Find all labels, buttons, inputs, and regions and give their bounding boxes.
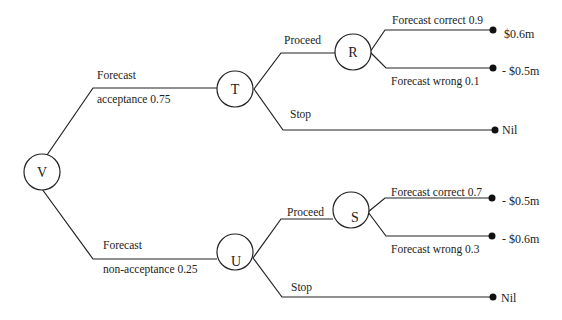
branch-t-stop: Stop Nil	[254, 89, 518, 137]
branch-label: Forecast wrong 0.1	[391, 75, 480, 88]
branch-line	[370, 30, 493, 52]
branch-label-line1: Forecast	[103, 239, 143, 251]
node-label: V	[37, 165, 47, 180]
branch-label: Stop	[290, 108, 311, 121]
branch-label: Forecast correct 0.9	[392, 14, 483, 26]
branch-line	[253, 219, 333, 258]
payoff-value: Nil	[501, 291, 517, 305]
payoff-value: - $0.5m	[502, 64, 540, 78]
payoff-value: - $0.6m	[502, 232, 540, 246]
branch-label: Proceed	[284, 34, 321, 46]
node-label: R	[348, 45, 358, 60]
branch-label-line2: acceptance 0.75	[97, 93, 171, 106]
branch-u-stop: Stop Nil	[253, 258, 517, 305]
branch-line	[368, 198, 492, 212]
branch-u-proceed: Proceed	[253, 206, 333, 258]
node-t: T	[217, 71, 253, 107]
terminal-dot	[490, 294, 497, 301]
branch-forecast-acceptance: Forecast acceptance 0.75	[47, 69, 217, 155]
branch-label: Stop	[291, 281, 312, 294]
branch-line	[254, 53, 335, 89]
terminal-dot	[490, 27, 497, 34]
terminal-dot	[490, 65, 497, 72]
node-label: S	[351, 210, 359, 225]
terminal-dot	[489, 195, 496, 202]
node-label: U	[231, 254, 241, 269]
branch-label-line1: Forecast	[97, 69, 137, 81]
branch-t-proceed: Proceed	[254, 34, 335, 89]
branch-r-correct: Forecast correct 0.9 $0.6m	[370, 14, 535, 52]
decision-tree: Forecast acceptance 0.75 Forecast non-ac…	[0, 0, 562, 320]
branch-s-correct: Forecast correct 0.7 - $0.5m	[368, 186, 540, 212]
payoff-value: $0.6m	[504, 27, 535, 41]
node-v: V	[24, 154, 60, 190]
branch-s-wrong: Forecast wrong 0.3 - $0.6m	[368, 212, 540, 256]
branch-forecast-non-acceptance: Forecast non-acceptance 0.25	[42, 189, 217, 276]
branch-line	[253, 258, 493, 297]
branch-line	[370, 52, 493, 68]
node-s: S	[333, 192, 369, 228]
branch-line	[368, 212, 492, 236]
branch-label: Forecast wrong 0.3	[391, 243, 480, 256]
terminal-dot	[489, 233, 496, 240]
branch-label: Forecast correct 0.7	[391, 186, 482, 198]
branch-label: Proceed	[287, 206, 324, 218]
payoff-value: Nil	[502, 123, 518, 137]
node-u: U	[217, 234, 253, 270]
branch-label-line2: non-acceptance 0.25	[103, 263, 198, 276]
terminal-dot	[492, 127, 499, 134]
node-label: T	[231, 82, 240, 97]
payoff-value: - $0.5m	[502, 194, 540, 208]
node-r: R	[335, 34, 371, 70]
branch-r-wrong: Forecast wrong 0.1 - $0.5m	[370, 52, 540, 88]
